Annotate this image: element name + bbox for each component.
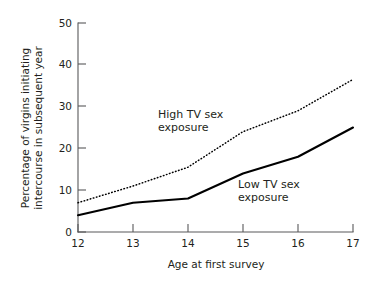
annotation-high-tv-sex-exposure: High TV sex exposure [158,108,224,134]
y-tick-label-2: 20 [59,142,72,154]
chart-container: 0 10 20 30 40 50 12 13 14 15 16 [0,0,376,282]
y-axis-ticks: 0 10 20 30 40 50 [59,17,86,238]
y-tick-label-4: 40 [59,58,72,70]
x-axis-ticks: 12 13 14 15 16 17 [71,224,359,249]
y-axis-title-line2: intercourse in subsequent year [32,46,44,210]
y-axis-title: Percentage of virgins initiating interco… [19,46,44,210]
y-tick-label-3: 30 [59,100,72,112]
series-high-tv-sex-exposure [78,79,353,202]
annotation-high-line1: High TV sex [158,108,224,121]
annotation-low-line2: exposure [238,191,289,204]
y-axis-title-line1: Percentage of virgins initiating [19,48,31,208]
line-chart: 0 10 20 30 40 50 12 13 14 15 16 [0,0,376,282]
annotation-high-line2: exposure [158,121,209,134]
x-tick-label-1: 13 [126,237,139,249]
x-tick-label-5: 17 [346,237,359,249]
y-tick-label-5: 50 [59,17,72,29]
annotation-low-line1: Low TV sex [238,178,300,191]
series-low-tv-sex-exposure [78,128,353,216]
x-tick-label-0: 12 [71,237,84,249]
x-axis-title: Age at first survey [168,258,265,270]
y-tick-label-1: 10 [59,184,72,196]
annotation-low-tv-sex-exposure: Low TV sex exposure [238,178,300,204]
x-tick-label-3: 15 [236,237,249,249]
x-tick-label-2: 14 [181,237,195,249]
x-tick-label-4: 16 [291,237,305,249]
